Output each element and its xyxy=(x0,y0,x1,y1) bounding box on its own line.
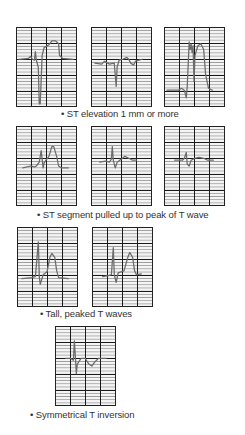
ecg-trace xyxy=(92,127,151,205)
caption-peaked-t: • Tall, peaked T waves xyxy=(40,308,132,319)
caption-t-inversion: • Symmetrical T inversion xyxy=(30,409,134,420)
ecg-panel-st-elevation-2 xyxy=(91,27,152,107)
caption-st-elevation: • ST elevation 1 mm or more xyxy=(61,108,179,119)
ecg-trace xyxy=(165,28,224,106)
ecg-trace xyxy=(56,327,115,405)
ecg-panel-st-elevation-3 xyxy=(164,27,225,107)
caption-st-pulled-up: • ST segment pulled up to peak of T wave xyxy=(37,209,209,220)
ecg-panel-peaked-t-1 xyxy=(17,227,78,307)
ecg-panel-st-pulled-2 xyxy=(91,126,152,206)
ecg-trace xyxy=(18,228,77,306)
ecg-panel-st-pulled-3 xyxy=(164,126,225,206)
ecg-panel-st-pulled-1 xyxy=(16,126,77,206)
ecg-trace xyxy=(17,127,76,205)
ecg-trace xyxy=(165,127,224,205)
ecg-trace xyxy=(92,28,151,106)
ecg-panel-peaked-t-2 xyxy=(92,227,153,307)
ecg-trace xyxy=(17,28,76,106)
ecg-panel-t-inversion xyxy=(55,326,116,406)
ecg-trace xyxy=(93,228,152,306)
ecg-panel-st-elevation-1 xyxy=(16,27,77,107)
